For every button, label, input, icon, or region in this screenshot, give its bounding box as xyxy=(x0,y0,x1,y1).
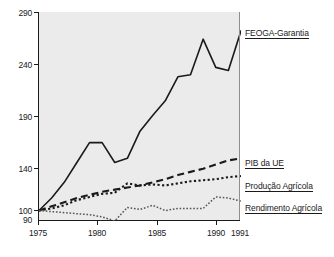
x-tick-mark-1985 xyxy=(157,221,158,225)
x-tick-mark-1990 xyxy=(216,221,217,225)
chart-figure: 290 240 190 140 100 90 1975 1980 1985 19… xyxy=(0,0,334,257)
y-tick-label-190: 190 xyxy=(6,112,32,122)
x-tick-label-1975: 1975 xyxy=(26,228,50,238)
x-tick-label-1980: 1980 xyxy=(85,228,109,238)
series-label-pib-da-ue: PIB da UE xyxy=(245,158,284,169)
series-label-producao-agricola: Produção Agrícola xyxy=(245,181,313,192)
x-tick-label-1991: 1991 xyxy=(228,228,252,238)
x-tick-label-1985: 1985 xyxy=(145,228,169,238)
y-tick-label-90: 90 xyxy=(6,215,32,225)
x-tick-mark-1980 xyxy=(97,221,98,225)
series-label-rendimento-agricola: Rendimento Agrícola xyxy=(245,203,322,214)
x-tick-mark-1975 xyxy=(38,221,39,225)
y-tick-label-290: 290 xyxy=(6,8,32,18)
series-line-rendimento-agricola xyxy=(39,197,241,221)
series-label-feoga-garantia: FEOGA-Garantia xyxy=(245,28,309,39)
series-line-feoga-garantia xyxy=(39,31,241,211)
series-line-producao-agricola xyxy=(39,176,241,210)
series-canvas xyxy=(39,12,241,221)
plot-area xyxy=(38,12,240,221)
y-tick-label-240: 240 xyxy=(6,60,32,70)
x-tick-label-1990: 1990 xyxy=(204,228,228,238)
y-tick-label-140: 140 xyxy=(6,164,32,174)
